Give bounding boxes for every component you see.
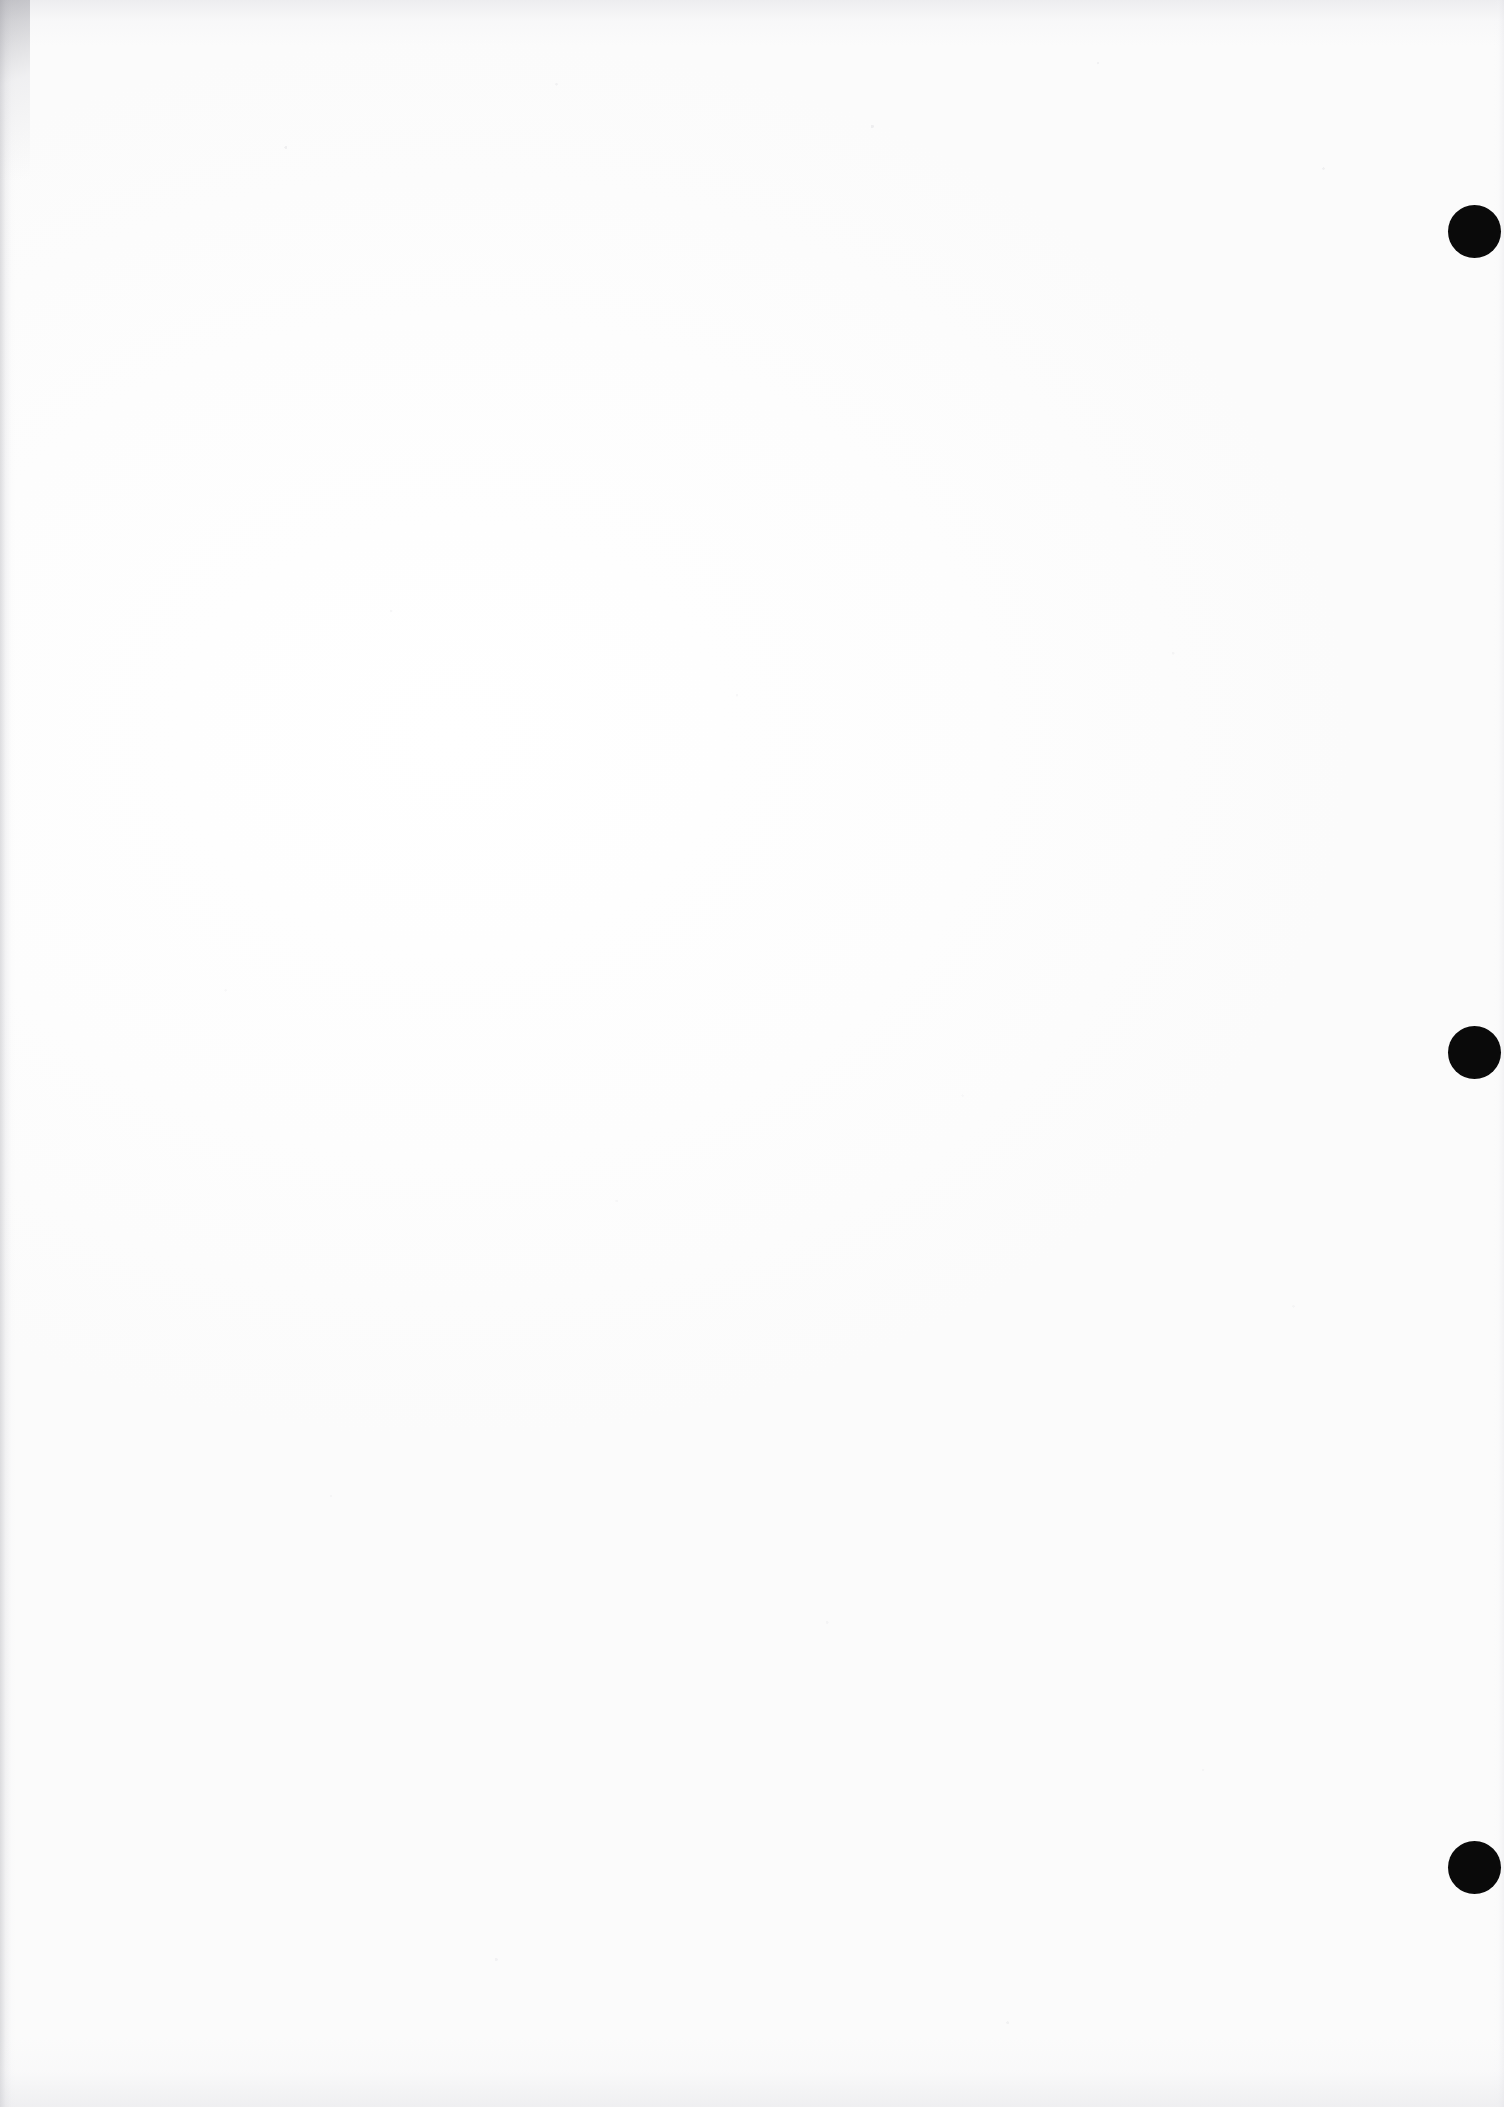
register-mark-middle	[1448, 1026, 1501, 1079]
scan-edge-left	[0, 0, 16, 2107]
scan-edge-corner-top-left	[0, 0, 30, 180]
register-mark-bottom	[1448, 1841, 1501, 1894]
scanned-page	[0, 0, 1504, 2107]
page-body-text	[150, 180, 1330, 1880]
scan-edge-top	[0, 0, 1504, 46]
register-mark-top	[1448, 205, 1501, 258]
scan-edge-bottom	[0, 2037, 1504, 2107]
